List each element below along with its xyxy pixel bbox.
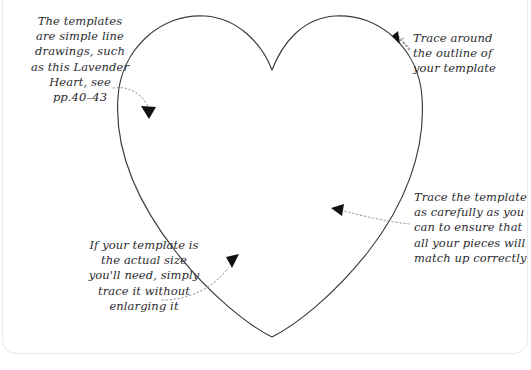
annotation-trace-outline: Trace around the outline of your templat…	[413, 31, 525, 77]
arrow-trace-carefully-icon	[331, 204, 344, 216]
annotation-templates: The templates are simple line drawings, …	[14, 14, 146, 105]
arrow-templates-icon	[141, 106, 156, 119]
annotation-actual-size: If your template is the actual size you'…	[82, 238, 206, 314]
leader-trace-outline	[392, 31, 410, 50]
annotation-trace-carefully: Trace the template as carefully as you c…	[414, 190, 530, 266]
page-canvas: The templates are simple line drawings, …	[0, 0, 531, 370]
arrow-actual-size-icon	[226, 254, 239, 268]
